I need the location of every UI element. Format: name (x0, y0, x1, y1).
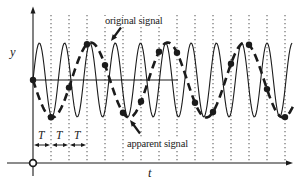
interval-arrowhead-left (70, 143, 75, 147)
original-signal-arrow-shaft (114, 28, 121, 37)
interval-arrowhead-left (52, 143, 57, 147)
interval-arrowhead-right (45, 143, 50, 147)
sample-point (192, 100, 198, 106)
sample-point (138, 98, 144, 104)
apparent-signal-label: apparent signal (126, 139, 189, 150)
sampling-interval-label-1: T (37, 130, 45, 142)
sample-point (30, 77, 36, 83)
t-axis-label: t (148, 167, 151, 180)
sample-point (120, 110, 126, 116)
origin-marker (30, 160, 37, 167)
sample-point (264, 86, 270, 92)
sample-point (48, 114, 54, 120)
sample-point (228, 61, 234, 67)
original-signal-label: original signal (104, 16, 163, 27)
sample-point (66, 84, 72, 90)
interval-arrowhead-left (34, 143, 39, 147)
sampling-interval-label-3: T (73, 130, 81, 142)
sampling-interval-label-2: T (55, 130, 63, 142)
apparent-signal-arrow-shaft (133, 124, 140, 133)
signal-plot-canvas (0, 0, 298, 186)
interval-arrowhead-right (63, 143, 68, 147)
aliasing-diagram: y t original signal apparent signal T T … (0, 0, 298, 186)
y-axis-label: y (10, 46, 16, 59)
sample-point (84, 41, 90, 47)
t-axis-arrowhead (286, 161, 293, 166)
sample-point (210, 109, 216, 115)
sample-point (102, 62, 108, 68)
sample-point (156, 49, 162, 55)
sample-point (246, 42, 252, 48)
interval-arrowhead-right (81, 143, 86, 147)
sample-point (282, 114, 288, 120)
y-axis-arrowhead (31, 7, 36, 14)
sample-point (174, 50, 180, 56)
